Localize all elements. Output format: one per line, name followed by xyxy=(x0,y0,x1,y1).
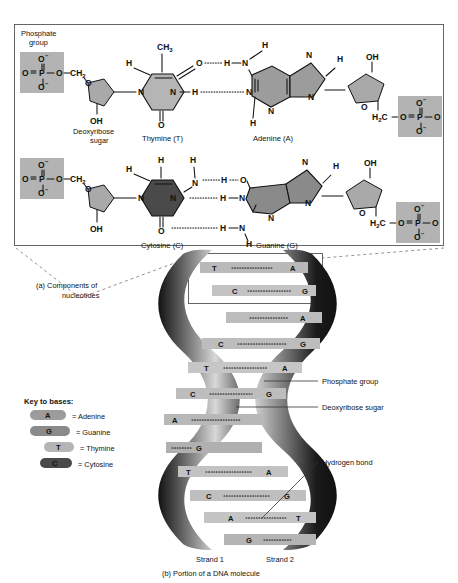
cytosine-n3: N xyxy=(170,193,176,203)
base-pair-row: C G xyxy=(202,338,320,349)
base-left: T xyxy=(186,468,191,477)
cytosine-n4: N xyxy=(192,178,198,188)
base-right: G xyxy=(266,390,272,399)
base-pair-row: A xyxy=(226,312,322,323)
panel-b-caption: (b) Portion of a DNA molecule xyxy=(162,569,260,578)
deoxyribose-label-line2: sugar xyxy=(90,136,109,145)
key-text-adenine: = Adenine xyxy=(72,412,105,421)
base-right: G xyxy=(300,340,306,349)
base-pair-row: T A xyxy=(188,362,302,373)
adenine-caption: Adenine (A) xyxy=(253,134,294,143)
thymine-n3: N xyxy=(170,87,176,97)
phosphate-o-top-left-down: O xyxy=(38,82,45,92)
base-pair-row: C G xyxy=(212,285,316,296)
key-item-adenine: A = Adenine xyxy=(30,410,105,421)
base-right: G xyxy=(196,444,202,453)
base-left: C xyxy=(206,492,212,501)
guanine-pyrimidine-ring xyxy=(246,184,290,214)
guanine-o6: O xyxy=(240,175,247,185)
base-right: A xyxy=(300,314,306,323)
thymine-h-n3: H xyxy=(192,87,198,97)
phosphate-group-label-line1: Phosphate xyxy=(21,29,56,38)
base-pair-row: C G xyxy=(176,388,286,399)
charge-bottom-right-up: − xyxy=(421,203,425,209)
key-text-guanine: = Guanine xyxy=(76,428,110,437)
callout-hydrogen-bond: Hydrogen bond xyxy=(322,458,373,467)
phosphate-o-top-right-up: O xyxy=(416,98,423,108)
dna-structure-figure: Phosphate group P O − O − O O CH2 O OH D… xyxy=(0,0,458,583)
panel-a-caption-line1: (a) Components of xyxy=(36,281,98,290)
charge-bottom-right-down: − xyxy=(421,231,425,237)
phosphate-o-top-right-west: O xyxy=(400,112,407,122)
cytosine-caption: Cytosine (C) xyxy=(141,241,184,250)
charge-top-left-down: − xyxy=(45,81,49,87)
guanine-n2: N xyxy=(239,223,245,233)
base-left: A xyxy=(228,514,234,523)
key-item-guanine: G = Guanine xyxy=(30,426,110,437)
phosphate-o-bottom-right-west: O xyxy=(398,218,405,228)
guanine-n7: N xyxy=(302,157,308,167)
guanine-n3: N xyxy=(268,213,274,223)
guanine-h-o6: H xyxy=(221,175,227,185)
base-left: C xyxy=(232,287,238,296)
charge-top-right-down: − xyxy=(423,125,427,131)
panel-a-caption-line2: nucleotides xyxy=(62,291,100,300)
base-pair-row: G xyxy=(166,442,262,453)
base-left: T xyxy=(212,264,217,273)
strand-2-label: Strand 2 xyxy=(266,555,294,564)
sugar-oh-top-left: OH xyxy=(90,116,103,126)
deoxyribose-top-left xyxy=(88,79,114,106)
base-left: C xyxy=(218,340,224,349)
phosphate-o-top-left-west: O xyxy=(22,68,29,78)
adenine-h8: H xyxy=(337,54,343,64)
thymine-ring xyxy=(141,74,184,110)
phosphate-o-bottom-left-east: O xyxy=(56,174,63,184)
guanine-imidazole-ring xyxy=(286,170,322,203)
key-to-bases: Key to bases: A = Adenine G = Guanine T … xyxy=(24,397,115,469)
adenine-n6: N xyxy=(242,58,248,68)
cytosine-h6: H xyxy=(158,155,164,165)
adenine-n3: N xyxy=(268,106,274,116)
base-pair-row: A xyxy=(164,414,264,425)
deoxyribose-bottom-right xyxy=(346,180,382,209)
sugar-oh-bottom-right: OH xyxy=(364,158,377,168)
cytosine-h5: H xyxy=(126,164,132,174)
deoxyribose-top-right xyxy=(348,74,384,103)
base-right: T xyxy=(296,514,301,523)
guanine-n9: N xyxy=(305,198,311,208)
charge-bottom-left-down: − xyxy=(45,187,49,193)
cytosine-h-amino: H xyxy=(190,155,196,165)
charge-top-left-up: − xyxy=(45,53,49,59)
phosphate-o-bottom-right-up: O xyxy=(414,204,421,214)
phosphate-o-bottom-right-down: O xyxy=(414,232,421,242)
key-symbol-thymine: T xyxy=(56,443,61,452)
thymine-methyl: CH3 xyxy=(157,42,173,53)
base-pair-row: T A xyxy=(200,262,308,273)
phosphate-o-top-right-down: O xyxy=(416,126,423,136)
sugar-ring-o-top-right: O xyxy=(361,102,368,112)
thymine-n1: N xyxy=(138,87,144,97)
base-right: A xyxy=(290,264,296,273)
guanine-n1: N xyxy=(239,193,245,203)
key-symbol-adenine: A xyxy=(45,411,51,420)
guanine-h-n2: H xyxy=(220,223,226,233)
adenine-h-amino: H xyxy=(224,58,230,68)
sugar-ch2-bottom-left: CH2 xyxy=(70,174,86,185)
sugar-oh-bottom-left: OH xyxy=(90,224,103,234)
base-pair-row: T A xyxy=(178,466,288,477)
key-symbol-guanine: G xyxy=(46,427,52,436)
base-pair-row: A T xyxy=(204,512,316,523)
thymine-h5: H xyxy=(126,58,132,68)
dna-double-helix: T A C G A C G T A C G xyxy=(158,250,337,550)
key-text-thymine: = Thymine xyxy=(80,444,115,453)
adenine-n1: N xyxy=(246,87,252,97)
phosphate-group-label-line2: group xyxy=(29,38,48,47)
key-item-cytosine: C = Cytosine xyxy=(40,458,113,469)
base-right: A xyxy=(282,364,288,373)
phosphate-o-bottom-left-west: O xyxy=(22,174,29,184)
deoxyribose-bottom-left xyxy=(88,185,114,212)
sugar-h2c-top-right: H2C xyxy=(372,112,388,123)
base-pair-rungs: T A C G A C G T A C G xyxy=(164,262,322,545)
key-title: Key to bases: xyxy=(24,397,73,406)
sugar-oh-top-right: OH xyxy=(366,52,379,62)
